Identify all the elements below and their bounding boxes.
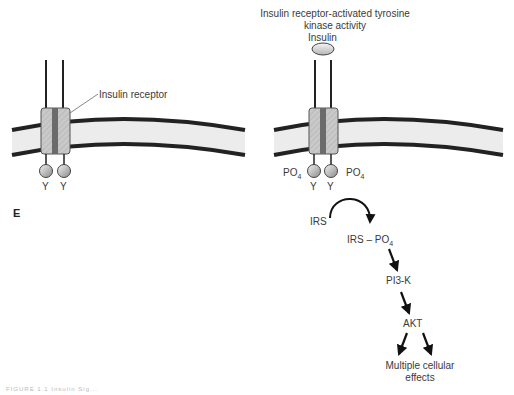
- panel-label: E: [13, 207, 20, 219]
- phosphate-right-label: PO4: [346, 167, 364, 183]
- phosphate-left-label: PO4: [283, 167, 301, 183]
- title-line-2: kinase activity: [230, 20, 440, 32]
- diagram-canvas: [0, 0, 514, 395]
- right-membrane: [274, 119, 503, 155]
- insulin-receptor-label: Insulin receptor: [99, 89, 167, 101]
- insulin-label: Insulin: [308, 32, 337, 44]
- pi3k-label: PI3-K: [386, 275, 411, 287]
- akt-label: AKT: [403, 318, 422, 330]
- right-insulin-receptor: [308, 43, 339, 178]
- irs-po4-label: IRS – PO4: [347, 234, 393, 250]
- right-tyrosine-1: Y: [310, 181, 317, 193]
- left-tyrosine-2: Y: [60, 181, 67, 193]
- left-tyrosine-1: Y: [42, 181, 49, 193]
- title-line-1: Insulin receptor-activated tyrosine: [230, 8, 440, 20]
- insulin-molecule: [312, 43, 334, 55]
- right-tyrosine-2: Y: [327, 181, 334, 193]
- pathway-arrows: [330, 199, 431, 354]
- figure-title: Insulin receptor-activated tyrosine kina…: [230, 8, 440, 32]
- figure-caption: FIGURE 1.1 Insulin Sig...: [6, 386, 98, 392]
- cellular-effects-label: Multiple cellular effects: [370, 360, 470, 384]
- irs-label: IRS: [310, 216, 327, 228]
